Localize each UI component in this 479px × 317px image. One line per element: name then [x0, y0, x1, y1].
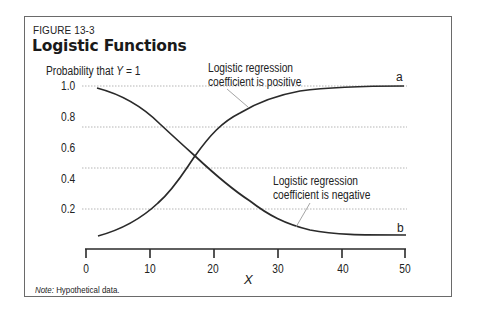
x-tick-label: 20: [207, 262, 218, 276]
x-axis-label: X: [244, 272, 253, 287]
series-a-label: a: [396, 70, 403, 84]
x-tick-label: 0: [83, 262, 89, 276]
callout-negative-leader: [296, 203, 310, 227]
figure-note: Note: Hypothetical data.: [35, 285, 120, 295]
callout-negative-line1: Logistic regression: [273, 174, 370, 188]
x-tick-label: 10: [144, 262, 155, 276]
x-tick-label: 50: [399, 262, 410, 276]
series-b-curve: [97, 88, 406, 235]
x-tick-label: 40: [337, 262, 348, 276]
callout-positive-line1: Logistic regression: [208, 61, 301, 75]
callout-positive-leader: [227, 89, 248, 107]
callout-negative-line2: coefficient is negative: [273, 188, 370, 202]
x-tick-label: 30: [272, 262, 283, 276]
note-label: Note:: [35, 285, 54, 295]
x-axis: [85, 249, 406, 258]
callout-negative: Logistic regression coefficient is negat…: [273, 174, 370, 202]
series-b-label: b: [397, 221, 404, 235]
series-a-curve: [98, 86, 404, 236]
callout-positive: Logistic regression coefficient is posit…: [208, 61, 301, 89]
note-text: Hypothetical data.: [54, 285, 120, 295]
callout-positive-line2: coefficient is positive: [208, 75, 301, 89]
